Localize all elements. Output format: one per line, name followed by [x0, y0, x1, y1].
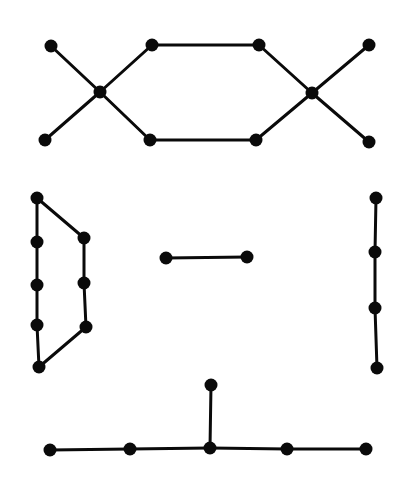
node-e4: [204, 442, 217, 455]
node-a6: [253, 39, 266, 52]
edge-e4-e1: [210, 385, 211, 448]
node-c2: [241, 251, 254, 264]
edge-d1-d2: [375, 198, 376, 252]
edge-e3-e4: [130, 448, 210, 449]
node-a10: [363, 136, 376, 149]
node-b8: [80, 321, 93, 334]
node-d4: [371, 362, 384, 375]
node-e5: [281, 443, 294, 456]
node-b1: [31, 192, 44, 205]
node-d2: [369, 246, 382, 259]
node-a4: [146, 39, 159, 52]
edge-e2-e3: [50, 449, 130, 450]
graph-diagram: [0, 0, 407, 486]
node-e6: [360, 443, 373, 456]
node-a7: [250, 134, 263, 147]
node-b5: [33, 361, 46, 374]
edge-d3-d4: [375, 308, 377, 368]
graph-diagram-canvas: [0, 0, 407, 486]
node-a5: [144, 134, 157, 147]
edges: [166, 257, 247, 258]
node-b6: [78, 232, 91, 245]
node-e1: [205, 379, 218, 392]
node-d1: [370, 192, 383, 205]
edge-b8-b7: [84, 283, 86, 327]
node-e3: [124, 443, 137, 456]
node-e2: [44, 444, 57, 457]
node-b2: [31, 236, 44, 249]
node-a8: [306, 87, 319, 100]
edge-c1-c2: [166, 257, 247, 258]
background: [0, 0, 407, 486]
node-c1: [160, 252, 173, 265]
node-b4: [31, 319, 44, 332]
node-a1: [45, 40, 58, 53]
node-b3: [31, 279, 44, 292]
edge-e4-e5: [210, 448, 287, 449]
node-b7: [78, 277, 91, 290]
node-a3: [94, 86, 107, 99]
node-d3: [369, 302, 382, 315]
node-a9: [363, 39, 376, 52]
node-a2: [39, 134, 52, 147]
